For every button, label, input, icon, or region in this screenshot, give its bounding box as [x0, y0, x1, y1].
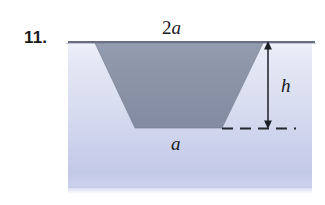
height-label: h — [281, 76, 291, 95]
top-width-coefficient: 2 — [162, 17, 172, 38]
figure-root: 11. 2a h a — [0, 0, 325, 205]
top-width-label: 2a — [162, 18, 181, 37]
bottom-width-label: a — [171, 134, 181, 153]
height-arrow-icon — [264, 41, 272, 129]
top-width-variable: a — [172, 17, 182, 38]
